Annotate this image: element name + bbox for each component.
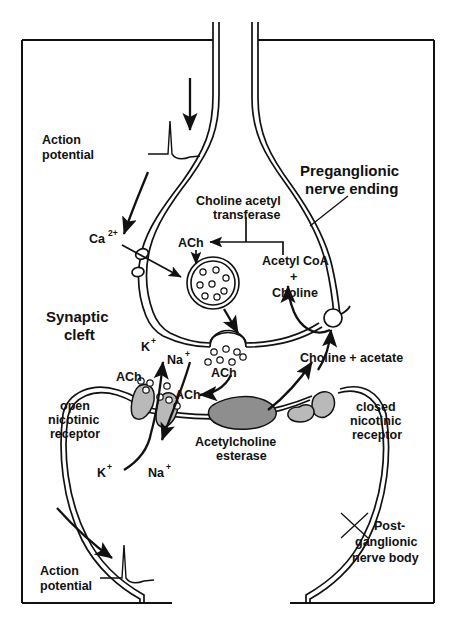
synapse-diagram: Action potential Preganglionic nerve end… [0, 0, 456, 641]
label-synaptic-cleft-line2: cleft [64, 326, 95, 343]
label-closed-receptor-line3: receptor [352, 428, 402, 442]
ap-to-calcium-arrow [124, 172, 148, 234]
label-plus-sign: + [290, 270, 297, 284]
label-open-receptor-line1: open [60, 399, 90, 413]
svg-text:Ca: Ca [89, 232, 106, 246]
label-calcium: Ca 2+ [89, 228, 118, 246]
label-open-receptor-line2: nicotinic [48, 413, 99, 427]
label-choline-acetyl-transferase-line1: Choline acetyl [196, 194, 281, 208]
released-acetylcholine [205, 346, 246, 365]
label-closed-receptor-line2: nicotinic [350, 414, 401, 428]
label-sodium-top: Na + [167, 349, 190, 367]
label-ach-cleft: ACh [211, 366, 237, 380]
label-choline-plus-acetate: Choline + acetate [300, 351, 403, 365]
label-acetylcholinesterase-line2: esterase [216, 449, 267, 463]
action-potential-trace-bottom [100, 545, 154, 583]
label-preganglionic-line2: nerve ending [305, 180, 398, 197]
label-closed-receptor-line1: closed [356, 400, 396, 414]
figure-panel: Action potential Preganglionic nerve end… [0, 0, 456, 641]
label-open-receptor-line3: receptor [50, 427, 100, 441]
label-postganglionic-line1: Post- [374, 519, 405, 533]
potassium-source-tail [124, 433, 151, 470]
label-choline-acetyl-transferase-line2: transferase [213, 208, 280, 222]
label-postganglionic-line2: ganglionic [355, 535, 418, 549]
label-sodium-bottom: Na + [148, 462, 171, 480]
svg-text:+: + [166, 462, 171, 472]
label-potassium-top: K + [141, 336, 156, 354]
label-postganglionic-line3: nerve body [352, 551, 419, 565]
label-action-potential-bottom-line2: potential [40, 579, 92, 593]
svg-text:K: K [97, 466, 106, 480]
label-ach-bound-receptor: ACh [116, 370, 142, 384]
svg-text:Na: Na [167, 353, 184, 367]
svg-text:K: K [141, 340, 150, 354]
label-synaptic-cleft-line1: Synaptic [46, 308, 109, 325]
svg-text:+: + [107, 462, 112, 472]
label-ach-free: ACh [175, 388, 201, 402]
label-action-potential-bottom-line1: Action [40, 564, 79, 578]
svg-text:Na: Na [148, 466, 165, 480]
acetylcholinesterase [208, 397, 276, 430]
vesicle-fusion-arrow [224, 309, 238, 333]
svg-text:+: + [185, 349, 190, 359]
action-potential-trace-top [148, 121, 200, 159]
synaptic-vesicle [187, 257, 239, 309]
label-action-potential-top-line2: potential [42, 148, 94, 162]
calcium-influx-arrow [122, 245, 181, 277]
label-choline: Choline [272, 286, 318, 300]
svg-text:2+: 2+ [108, 228, 118, 238]
svg-text:+: + [151, 336, 156, 346]
label-preganglionic-line1: Preganglionic [300, 162, 399, 179]
label-acetylcholinesterase-line1: Acetylcholine [195, 435, 276, 449]
label-acetyl-coa: Acetyl CoA [262, 254, 329, 268]
label-ach-synthesis: ACh [178, 236, 204, 250]
choline-transporter [324, 309, 342, 327]
label-action-potential-top-line1: Action [42, 133, 81, 147]
label-potassium-bottom: K + [97, 462, 112, 480]
preganglionic-leader [310, 196, 348, 226]
